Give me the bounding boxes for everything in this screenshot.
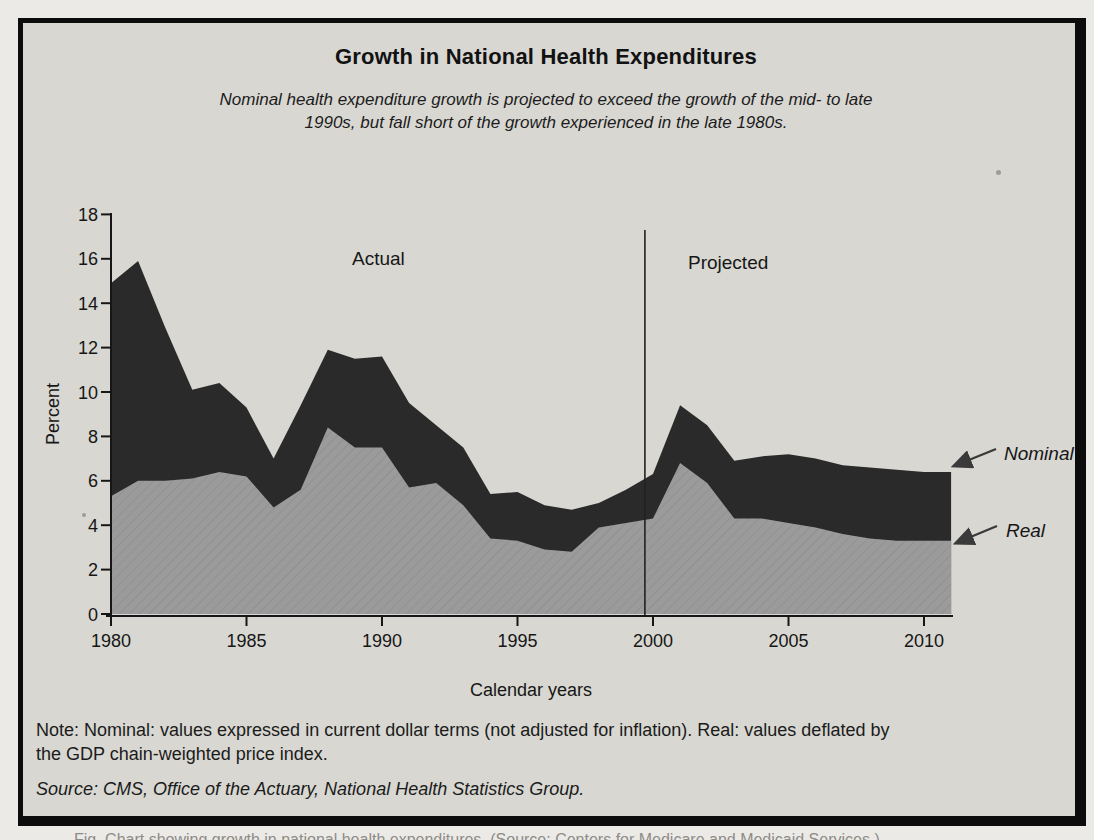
y-tick-label: 12: [78, 338, 98, 358]
y-tick-label: 14: [78, 294, 98, 314]
y-tick-label: 6: [88, 471, 98, 491]
projected-region-label: Projected: [688, 252, 768, 274]
x-tick-label: 1980: [91, 631, 131, 651]
x-tick-label: 2010: [904, 631, 944, 651]
figure-page: 0246810121416181980198519901995200020052…: [0, 0, 1094, 840]
x-tick-label: 2005: [768, 631, 808, 651]
y-tick-label: 2: [88, 560, 98, 580]
x-axis-title: Calendar years: [470, 680, 592, 701]
y-axis-title: Percent: [43, 383, 64, 445]
source-line: Source: CMS, Office of the Actuary, Nati…: [36, 779, 584, 800]
note-line-1: Note: Nominal: values expressed in curre…: [36, 720, 889, 741]
scan-speck: [996, 170, 1001, 175]
nominal-series-label: Nominal: [1004, 443, 1074, 465]
x-tick-label: 1990: [362, 631, 402, 651]
x-tick-label: 1995: [497, 631, 537, 651]
actual-region-label: Actual: [352, 248, 405, 270]
note-line-2: the GDP chain-weighted price index.: [36, 744, 328, 765]
chart-subtitle-line-2: 1990s, but fall short of the growth expe…: [305, 113, 788, 133]
y-tick-label: 0: [88, 605, 98, 625]
y-tick-label: 16: [78, 249, 98, 269]
y-tick-label: 18: [78, 205, 98, 225]
x-tick-label: 1985: [226, 631, 266, 651]
real-series-label: Real: [1006, 520, 1045, 542]
x-tick-label: 2000: [633, 631, 673, 651]
clipped-page-caption: Fig. Chart showing growth in national he…: [74, 831, 1054, 840]
nominal-annotation-arrow: [954, 449, 996, 466]
real-annotation-arrow: [956, 526, 997, 543]
y-tick-label: 4: [88, 516, 98, 536]
scan-speck: [82, 513, 86, 517]
chart-title: Growth in National Health Expenditures: [335, 44, 757, 70]
y-tick-label: 10: [78, 383, 98, 403]
y-tick-label: 8: [88, 427, 98, 447]
chart-subtitle-line-1: Nominal health expenditure growth is pro…: [220, 90, 873, 110]
